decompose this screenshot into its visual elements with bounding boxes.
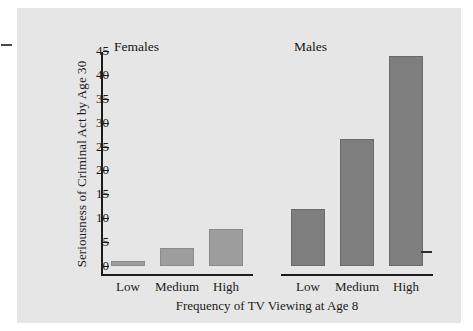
y-tick-label: 5: [71, 235, 109, 248]
y-tick-label: 10: [71, 211, 109, 224]
y-tick-label: 15: [71, 187, 109, 200]
baseline-females: [101, 274, 253, 276]
bar-females-medium: [160, 248, 194, 266]
x-axis-title: Frequency of TV Viewing at Age 8: [101, 298, 433, 314]
y-tick-label-text: 10: [85, 211, 109, 224]
y-tick-label-text: 0: [85, 259, 109, 272]
bar-females-low: [111, 261, 145, 266]
y-tick-label: 40: [71, 68, 109, 81]
y-tick-label: 30: [71, 116, 109, 129]
y-tick-label-text: 35: [85, 92, 109, 105]
bar-males-high: [389, 56, 423, 266]
y-tick-label-text: 20: [85, 163, 109, 176]
baseline-males: [281, 274, 433, 276]
y-tick-label: 25: [71, 140, 109, 153]
category-label-females-high: High: [197, 279, 255, 295]
y-tick-label-text: 15: [85, 187, 109, 200]
bar-males-low: [291, 209, 325, 266]
bar-males-medium: [340, 139, 374, 266]
y-tick-label-text: 45: [85, 44, 109, 57]
plot-panel: Seriousness of Criminal Act by Age 30 05…: [17, 8, 461, 323]
bar-females-high: [209, 229, 243, 266]
y-tick-label-text: 30: [85, 116, 109, 129]
y-tick-label-text: 5: [85, 235, 109, 248]
y-tick-label: 45: [71, 44, 109, 57]
y-tick-label: 35: [71, 92, 109, 105]
category-label-males-high: High: [377, 279, 435, 295]
y-tick-label-text: 40: [85, 68, 109, 81]
y-tick-label-text: 25: [85, 140, 109, 153]
group-heading-females: Females: [114, 39, 159, 55]
chart-figure: Seriousness of Criminal Act by Age 30 05…: [0, 0, 473, 331]
y-tick-label: 0: [71, 259, 109, 272]
y-tick-label: 20: [71, 163, 109, 176]
right-edge-marker: [421, 251, 432, 253]
group-heading-males: Males: [294, 39, 327, 55]
left-edge-marker: [1, 44, 12, 46]
